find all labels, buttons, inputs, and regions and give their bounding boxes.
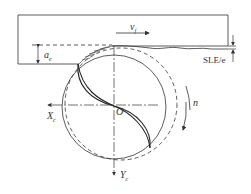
feed-velocity-label: vf [130, 22, 136, 34]
surface-error-dimension [228, 35, 236, 62]
depth-of-cut-sub: e [49, 56, 52, 62]
milling-diagram [0, 0, 251, 194]
x-axis-sub: c [53, 117, 56, 123]
origin-label: O [116, 107, 123, 117]
depth-of-cut-label: ae [44, 50, 52, 62]
rotation-label: n [193, 98, 198, 108]
y-axis-sub: c [126, 176, 129, 182]
cutter-circle-dashed [65, 48, 177, 160]
surface-error-label: SLE/e [203, 56, 226, 65]
rotation-arrow [183, 102, 186, 130]
x-axis-label: Xc [47, 111, 56, 123]
chip-hatch [79, 46, 112, 64]
y-axis-label: Yc [120, 170, 128, 182]
feed-velocity-sub: f [134, 28, 136, 34]
